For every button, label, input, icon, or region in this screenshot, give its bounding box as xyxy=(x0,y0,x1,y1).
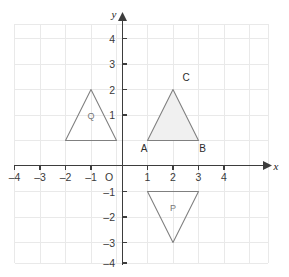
x-axis-label: x xyxy=(273,160,279,172)
y-tick-label-1: 1 xyxy=(109,109,115,121)
triangle-q-label: Q xyxy=(87,111,94,121)
y-axis-label: y xyxy=(111,8,117,20)
vertex-label-c: C xyxy=(182,72,189,83)
y-tick-label-neg4: –4 xyxy=(103,257,115,269)
x-tick-label-4: 4 xyxy=(221,171,227,183)
y-tick-label-neg3: –3 xyxy=(103,237,115,249)
x-tick-label-3: 3 xyxy=(196,171,202,183)
coordinate-plane-figure: Q P xyxy=(0,0,289,277)
origin-label: O xyxy=(105,171,113,183)
x-tick-labels: –4 –3 –2 –1 1 2 3 4 xyxy=(9,171,227,183)
y-tick-label-3: 3 xyxy=(109,58,115,70)
y-tick-label-2: 2 xyxy=(109,84,115,96)
y-axis-arrow-icon xyxy=(118,12,127,21)
vertex-label-a: A xyxy=(141,143,148,154)
x-tick-label-1: 1 xyxy=(145,171,151,183)
triangle-p-label: P xyxy=(170,203,176,213)
y-tick-label-neg2: –2 xyxy=(103,211,115,223)
y-tick-label-4: 4 xyxy=(109,33,115,45)
vertex-label-b: B xyxy=(199,143,206,154)
axes xyxy=(14,12,272,265)
y-tick-label-neg1: –1 xyxy=(103,186,115,198)
tick-marks xyxy=(15,39,225,264)
x-tick-label-2: 2 xyxy=(170,171,176,183)
x-tick-label-neg4: –4 xyxy=(9,171,21,183)
x-tick-label-neg1: –1 xyxy=(85,171,97,183)
y-tick-labels: 4 3 2 1 –1 –2 –3 –4 xyxy=(103,33,115,270)
x-tick-label-neg2: –2 xyxy=(60,171,72,183)
x-tick-label-neg3: –3 xyxy=(34,171,46,183)
graph-canvas: Q P xyxy=(0,0,289,277)
